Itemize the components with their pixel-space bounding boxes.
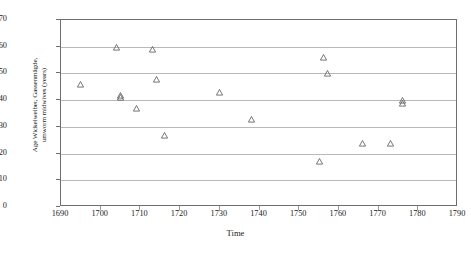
y-tick-label: 0 (0, 202, 7, 210)
x-tick-label: 1690 (40, 210, 80, 218)
x-tick-label: 1710 (119, 210, 159, 218)
x-tick-label: 1780 (397, 210, 437, 218)
y-tick-label: 30 (0, 122, 7, 130)
gridline (61, 154, 456, 155)
gridline (61, 127, 456, 128)
x-tick-label: 1770 (358, 210, 398, 218)
y-tick-label: 60 (0, 42, 7, 50)
y-axis-title-line-1: Age Wickelweiber, Gassenmägde, (31, 58, 40, 152)
y-axis-title-line-2: umworm midwives (years) (40, 68, 49, 142)
y-tick-label: 50 (0, 68, 7, 76)
y-tick-label: 70 (0, 15, 7, 23)
x-tick-mark (417, 206, 418, 210)
x-tick-mark (100, 206, 101, 210)
x-tick-label: 1740 (239, 210, 279, 218)
x-tick-label: 1730 (199, 210, 239, 218)
x-tick-mark (338, 206, 339, 210)
x-tick-mark (139, 206, 140, 210)
y-axis-title: Age Wickelweiber, Gassenmägde, umworm mi… (20, 5, 60, 205)
x-tick-mark (219, 206, 220, 210)
x-tick-label: 1760 (318, 210, 358, 218)
x-tick-label: 1790 (437, 210, 471, 218)
x-tick-mark (378, 206, 379, 210)
plot-area (60, 19, 457, 206)
x-tick-label: 1720 (159, 210, 199, 218)
gridline (61, 73, 456, 74)
y-tick-label: 20 (0, 149, 7, 157)
y-tick-label: 10 (0, 175, 7, 183)
x-tick-label: 1750 (278, 210, 318, 218)
scatter-chart-figure: Age Wickelweiber, Gassenmägde, umworm mi… (0, 0, 471, 258)
y-tick-mark (56, 206, 60, 207)
x-tick-mark (298, 206, 299, 210)
x-tick-mark (179, 206, 180, 210)
x-axis-title: Time (0, 228, 471, 238)
gridline (61, 47, 456, 48)
x-tick-label: 1700 (80, 210, 120, 218)
x-tick-mark (259, 206, 260, 210)
y-tick-label: 40 (0, 95, 7, 103)
gridline (61, 180, 456, 181)
